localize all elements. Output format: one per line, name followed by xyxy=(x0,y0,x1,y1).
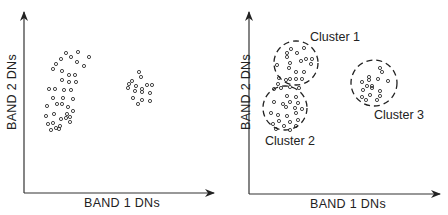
data-point xyxy=(368,93,371,96)
data-point xyxy=(276,113,279,116)
data-point xyxy=(309,62,312,65)
data-point xyxy=(284,78,287,81)
cluster-2-label: Cluster 2 xyxy=(265,134,315,148)
data-point xyxy=(285,51,288,54)
data-point xyxy=(361,88,364,91)
data-point xyxy=(54,62,57,65)
data-point xyxy=(134,84,137,87)
data-point xyxy=(375,98,378,101)
data-point xyxy=(51,121,54,124)
data-point xyxy=(360,80,363,83)
left-y-axis-label: BAND 2 DNs xyxy=(5,54,19,130)
data-point xyxy=(271,122,274,125)
data-point xyxy=(277,119,280,122)
data-point xyxy=(59,57,62,60)
data-point xyxy=(61,96,64,99)
data-point xyxy=(76,50,79,53)
data-point xyxy=(285,114,288,117)
data-point xyxy=(284,105,287,108)
data-point xyxy=(53,87,56,90)
data-point xyxy=(82,64,85,67)
data-point xyxy=(282,124,285,127)
data-point xyxy=(378,94,381,97)
data-point xyxy=(272,100,275,103)
cluster-3-boundary xyxy=(351,60,397,106)
diagram-stage: BAND 1 DNs BAND 2 DNs BAND 1 DNs BAND 2 … xyxy=(0,0,448,215)
data-point xyxy=(364,98,367,101)
data-point xyxy=(294,70,297,73)
data-point xyxy=(51,96,54,99)
data-point xyxy=(67,80,70,83)
data-point xyxy=(46,122,49,125)
data-point xyxy=(300,107,303,110)
right-y-axis-label: BAND 2 DNs xyxy=(239,54,253,130)
data-point xyxy=(127,82,130,85)
cluster-3-label: Cluster 3 xyxy=(374,108,424,122)
data-point xyxy=(74,80,77,83)
data-point xyxy=(288,77,291,80)
data-point xyxy=(299,59,302,62)
data-point xyxy=(60,102,63,105)
data-point xyxy=(376,77,379,80)
data-point xyxy=(59,117,62,120)
data-point xyxy=(297,86,300,89)
data-point xyxy=(126,86,129,89)
data-point xyxy=(71,109,74,112)
data-point xyxy=(57,127,60,130)
data-point xyxy=(60,78,63,81)
data-point xyxy=(62,88,65,91)
data-point xyxy=(130,79,133,82)
data-point xyxy=(288,120,291,123)
data-point xyxy=(380,70,383,73)
data-point xyxy=(360,95,363,98)
cluster-1-boundary xyxy=(274,41,318,85)
data-point xyxy=(365,84,368,87)
data-point xyxy=(289,47,292,50)
data-point xyxy=(378,66,381,69)
data-point xyxy=(378,89,381,92)
data-point xyxy=(148,91,151,94)
data-point xyxy=(386,79,389,82)
data-point xyxy=(294,111,297,114)
data-point xyxy=(302,46,305,49)
data-point xyxy=(69,55,72,58)
data-point xyxy=(137,70,140,73)
data-point xyxy=(71,97,74,100)
data-point xyxy=(304,57,307,60)
data-point xyxy=(285,94,288,97)
data-point xyxy=(296,101,299,104)
data-point xyxy=(87,55,90,58)
data-point xyxy=(294,95,297,98)
data-point xyxy=(300,77,303,80)
data-point xyxy=(52,112,55,115)
data-point xyxy=(64,116,67,119)
data-point xyxy=(136,102,139,105)
right-x-axis-label: BAND 1 DNs xyxy=(310,197,386,211)
data-point xyxy=(302,70,305,73)
data-point xyxy=(288,100,291,103)
left-panel-axes xyxy=(24,12,214,193)
data-point xyxy=(310,57,313,60)
data-point xyxy=(60,69,63,72)
data-point xyxy=(285,55,288,58)
cluster-1-label: Cluster 1 xyxy=(310,30,360,44)
data-point xyxy=(51,67,54,70)
data-point xyxy=(150,83,153,86)
data-point xyxy=(68,120,71,123)
data-point xyxy=(288,85,291,88)
data-point xyxy=(64,51,67,54)
data-point xyxy=(287,66,290,69)
left-x-axis-label: BAND 1 DNs xyxy=(84,196,160,210)
data-point xyxy=(293,106,296,109)
data-point xyxy=(68,115,71,118)
right-scatter-points xyxy=(269,46,389,131)
data-point xyxy=(275,63,278,66)
data-point xyxy=(66,105,69,108)
data-point xyxy=(75,60,78,63)
data-point xyxy=(45,104,48,107)
data-point xyxy=(279,86,282,89)
data-point xyxy=(69,88,72,91)
data-point xyxy=(133,89,136,92)
data-point xyxy=(140,98,143,101)
left-scatter-points xyxy=(44,50,153,131)
